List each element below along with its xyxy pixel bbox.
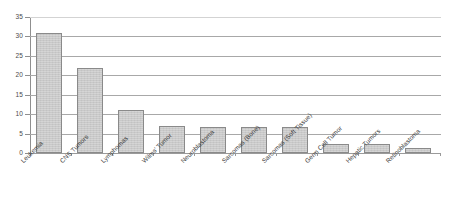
x-label-lymphomas: Lymphomas	[100, 135, 129, 164]
x-label-leukemia: Leukemia	[20, 140, 44, 164]
x-label-cns-tumors: CNS Tumors	[59, 134, 90, 165]
x-label-neuroblastoma: Neuroblastoma	[180, 129, 216, 165]
x-label-retinoblastoma: Retinoblastoma	[385, 128, 421, 164]
x-label-hepatic-tumors: Hepatic Tumors	[345, 128, 382, 165]
x-label-sarcomas-bone: Sarcomas (Bone)	[221, 124, 261, 164]
x-axis-category-labels: Leukemia CNS Tumors Lymphomas Wilms' Tum…	[0, 0, 455, 222]
x-label-wilms-tumor: Wilms' Tumor	[141, 132, 173, 164]
bar-chart: 35 30 25 20 15 10 5 0	[0, 0, 455, 222]
x-label-germ-cell-tumor: Germ Cell Tumor	[304, 125, 343, 164]
